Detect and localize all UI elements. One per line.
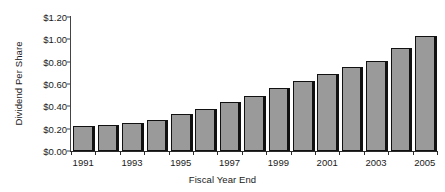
x-axis-title: Fiscal Year End bbox=[0, 174, 445, 185]
bar-1997 bbox=[220, 102, 240, 151]
bar-2000 bbox=[293, 81, 313, 151]
bar-1995 bbox=[171, 114, 191, 151]
x-tick-mark bbox=[144, 151, 145, 155]
x-tick-mark bbox=[364, 151, 365, 155]
x-tick-label-1995: 1995 bbox=[170, 157, 191, 168]
y-tick-label: $0.00 bbox=[43, 146, 67, 157]
bar-1999 bbox=[269, 88, 289, 151]
x-tick-mark bbox=[120, 151, 121, 155]
x-tick-label-1999: 1999 bbox=[268, 157, 289, 168]
x-tick-label-1993: 1993 bbox=[121, 157, 142, 168]
x-tick-label-1991: 1991 bbox=[73, 157, 94, 168]
bar-1991 bbox=[73, 126, 93, 151]
x-tick-label-1997: 1997 bbox=[219, 157, 240, 168]
y-tick-label: $1.00 bbox=[43, 34, 67, 45]
bar-2002 bbox=[342, 67, 362, 151]
x-tick-label-2005: 2005 bbox=[414, 157, 435, 168]
x-tick-mark bbox=[193, 151, 194, 155]
y-tick-label: $0.20 bbox=[43, 123, 67, 134]
x-tick-mark bbox=[291, 151, 292, 155]
bar-2005 bbox=[415, 36, 435, 151]
x-tick-mark bbox=[339, 151, 340, 155]
x-tick-mark bbox=[71, 151, 72, 155]
bar-1993 bbox=[122, 123, 142, 151]
bar-2004 bbox=[391, 48, 411, 151]
bar-2003 bbox=[366, 61, 386, 151]
x-tick-label-2003: 2003 bbox=[365, 157, 386, 168]
x-tick-mark bbox=[242, 151, 243, 155]
y-tick-label: $0.80 bbox=[43, 56, 67, 67]
y-tick-label: $0.40 bbox=[43, 101, 67, 112]
x-tick-mark bbox=[169, 151, 170, 155]
x-tick-mark bbox=[95, 151, 96, 155]
x-tick-label-2001: 2001 bbox=[317, 157, 338, 168]
bar-1996 bbox=[195, 109, 215, 151]
x-tick-mark bbox=[266, 151, 267, 155]
x-axis-line bbox=[70, 151, 438, 152]
bar-1998 bbox=[244, 96, 264, 151]
plot-area bbox=[71, 17, 437, 151]
x-tick-mark bbox=[413, 151, 414, 155]
y-axis-tick-labels: $0.00$0.20$0.40$0.60$0.80$1.00$1.20 bbox=[0, 0, 67, 192]
bar-1994 bbox=[147, 120, 167, 151]
x-tick-mark bbox=[315, 151, 316, 155]
y-tick-label: $1.20 bbox=[43, 12, 67, 23]
x-tick-mark bbox=[217, 151, 218, 155]
x-tick-mark bbox=[437, 151, 438, 155]
x-tick-mark bbox=[388, 151, 389, 155]
bar-2001 bbox=[317, 74, 337, 151]
bar-1992 bbox=[98, 125, 118, 151]
y-tick-label: $0.60 bbox=[43, 79, 67, 90]
dividend-per-share-bar-chart: Dividend Per Share $0.00$0.20$0.40$0.60$… bbox=[0, 0, 445, 192]
